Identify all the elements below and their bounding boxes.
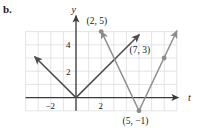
x-tick-label-neg2: −2	[46, 101, 56, 111]
point-label-7-3: (7, 3)	[130, 45, 151, 56]
x-tick-label-2: 2	[99, 101, 104, 111]
data-point-5-neg1	[137, 108, 142, 113]
point-label-5-neg1: (5, −1)	[123, 116, 149, 127]
x-axis-label: t	[188, 92, 191, 103]
y-tick-label-4: 4	[66, 40, 71, 50]
graph-figure: y t −2 2 2 4 (2, 5) (7, 3) (5, −1)	[0, 0, 199, 130]
data-point-2-5	[99, 29, 104, 34]
point-label-2-5: (2, 5)	[87, 16, 108, 27]
curve-dark-absolute-value	[35, 35, 140, 98]
y-axis-label: y	[71, 4, 77, 15]
y-tick-label-2: 2	[66, 67, 71, 77]
data-point-7-3	[162, 56, 167, 61]
